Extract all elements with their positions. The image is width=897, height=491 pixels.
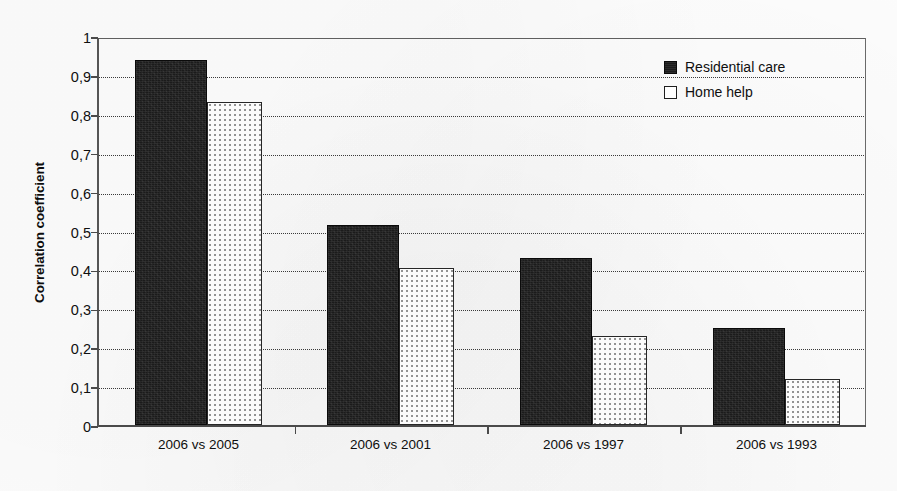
y-axis-tick bbox=[91, 37, 98, 39]
y-axis-tick-label: 0,2 bbox=[47, 341, 91, 357]
y-axis-tick-label: 1 bbox=[47, 30, 91, 46]
bar-chart-figure: Correlation coefficient 00,10,20,30,40,5… bbox=[0, 0, 897, 491]
bar-residential-care-2 bbox=[520, 258, 592, 425]
y-axis-tick-label: 0,8 bbox=[47, 108, 91, 124]
legend-item: Residential care bbox=[664, 56, 785, 78]
filled-dark-square-icon bbox=[664, 61, 677, 74]
y-axis-tick bbox=[91, 115, 98, 117]
y-axis-tick bbox=[91, 232, 98, 234]
chart-legend: Residential careHome help bbox=[664, 56, 834, 108]
y-axis-tick bbox=[91, 193, 98, 195]
bar-residential-care-3 bbox=[713, 328, 785, 425]
x-axis-category-label: 2006 vs 1993 bbox=[736, 437, 817, 452]
legend-item: Home help bbox=[664, 81, 753, 103]
y-axis-tick bbox=[91, 426, 98, 428]
y-axis-tick-label: 0,9 bbox=[47, 69, 91, 85]
y-axis-tick bbox=[91, 387, 98, 389]
x-axis-category-label: 2006 vs 2001 bbox=[350, 437, 431, 452]
bar-home-help-1 bbox=[399, 268, 454, 426]
x-axis-category-label: 2006 vs 1997 bbox=[543, 437, 624, 452]
y-axis-tick-labels: 00,10,20,30,40,50,60,70,80,91 bbox=[41, 38, 91, 427]
bar-home-help-2 bbox=[592, 336, 647, 425]
y-axis-tick-label: 0,7 bbox=[47, 147, 91, 163]
y-axis-tick bbox=[91, 154, 98, 156]
bar-home-help-0 bbox=[207, 102, 262, 425]
y-axis-tick bbox=[91, 310, 98, 312]
y-axis-tick bbox=[91, 76, 98, 78]
bar-home-help-3 bbox=[785, 379, 840, 426]
x-axis-tick bbox=[295, 426, 297, 434]
y-axis-tick bbox=[91, 348, 98, 350]
y-axis-tick-label: 0,3 bbox=[47, 302, 91, 318]
bar-residential-care-0 bbox=[135, 60, 207, 426]
bar-residential-care-1 bbox=[327, 225, 399, 425]
y-axis-tick-label: 0,4 bbox=[47, 263, 91, 279]
y-axis-tick bbox=[91, 271, 98, 273]
legend-item-label: Residential care bbox=[685, 59, 785, 75]
outlined-white-square-icon bbox=[664, 86, 677, 99]
x-axis-tick bbox=[680, 426, 682, 434]
x-axis-tick bbox=[487, 426, 489, 434]
y-axis-tick-label: 0,1 bbox=[47, 380, 91, 396]
plot-border-top bbox=[97, 38, 866, 39]
y-axis-tick-label: 0 bbox=[47, 419, 91, 435]
x-axis-category-label: 2006 vs 2005 bbox=[158, 437, 239, 452]
legend-item-label: Home help bbox=[685, 84, 753, 100]
plot-border-right bbox=[865, 38, 866, 427]
y-axis-tick-label: 0,5 bbox=[47, 225, 91, 241]
x-axis-line bbox=[97, 425, 866, 427]
x-axis-category-labels: 2006 vs 20052006 vs 20012006 vs 19972006… bbox=[97, 437, 866, 463]
y-axis-tick-label: 0,6 bbox=[47, 186, 91, 202]
